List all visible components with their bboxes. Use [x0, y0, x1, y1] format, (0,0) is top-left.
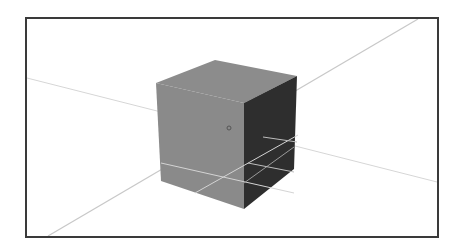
scene-canvas[interactable] [0, 0, 463, 252]
